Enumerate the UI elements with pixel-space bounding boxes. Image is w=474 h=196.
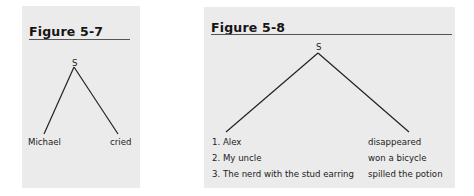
predicate-item-1: disappeared: [368, 137, 421, 147]
tree-branches: [22, 6, 140, 188]
leaf-subject: Michael: [28, 137, 61, 147]
subject-item-1: 1. Alex: [212, 137, 241, 147]
figure-5-7-panel: Figure 5-7 S Michael cried: [22, 6, 140, 188]
leaf-predicate: cried: [110, 137, 131, 147]
predicate-item-2: won a bicycle: [368, 153, 427, 163]
predicate-item-3: spilled the potion: [368, 169, 443, 179]
figure-5-8-panel: Figure 5-8 S 1. Alex 2. My uncle 3. The …: [204, 7, 455, 188]
subject-item-2: 2. My uncle: [212, 153, 261, 163]
subject-item-3: 3. The nerd with the stud earring: [212, 169, 354, 179]
